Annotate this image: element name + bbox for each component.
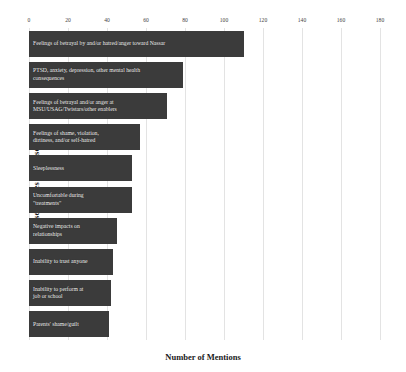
bar[interactable] xyxy=(29,280,111,306)
bar[interactable] xyxy=(29,187,132,213)
x-tick-label: 180 xyxy=(376,17,384,23)
bar[interactable] xyxy=(29,93,167,119)
bar[interactable] xyxy=(29,311,109,337)
bar-row[interactable]: Feelings of betrayal and/or anger at MSU… xyxy=(29,93,380,119)
x-tick-label: 160 xyxy=(337,17,345,23)
bar-chart: Consequences of Abuse 020406080100120140… xyxy=(0,0,406,372)
x-tick-label: 120 xyxy=(259,17,267,23)
bar[interactable] xyxy=(29,62,183,88)
x-axis-tick-labels: 020406080100120140160180 xyxy=(29,17,380,28)
bar[interactable] xyxy=(29,155,132,181)
plot-area: Feelings of betrayal by and/or hatred/an… xyxy=(29,28,380,340)
bars: Feelings of betrayal by and/or hatred/an… xyxy=(29,28,380,340)
bar-row[interactable]: PTSD, anxiety, depression, other mental … xyxy=(29,62,380,88)
bar-row[interactable]: Feelings of shame, violation, dirtiness,… xyxy=(29,124,380,150)
bar-row[interactable]: Negative impacts on relationships xyxy=(29,218,380,244)
x-tick-label: 20 xyxy=(65,17,71,23)
bar-row[interactable]: Feelings of betrayal by and/or hatred/an… xyxy=(29,31,380,57)
bar-row[interactable]: Parents' shame/guilt xyxy=(29,311,380,337)
bar[interactable] xyxy=(29,124,140,150)
bar-row[interactable]: Uncomfortable during "treatments" xyxy=(29,187,380,213)
bar-row[interactable]: Sleeplessness xyxy=(29,155,380,181)
bar-row[interactable]: Inability to perform at job or school xyxy=(29,280,380,306)
x-tick-label: 0 xyxy=(28,17,31,23)
bar-row[interactable]: Inability to trust anyone xyxy=(29,249,380,275)
bar[interactable] xyxy=(29,218,117,244)
gridline xyxy=(380,28,381,340)
bar[interactable] xyxy=(29,31,244,57)
x-axis-title: Number of Mentions xyxy=(0,352,406,362)
x-tick-label: 80 xyxy=(182,17,188,23)
x-tick-label: 40 xyxy=(104,17,110,23)
x-tick-label: 60 xyxy=(143,17,149,23)
x-tick-label: 140 xyxy=(298,17,306,23)
bar[interactable] xyxy=(29,249,113,275)
x-tick-label: 100 xyxy=(220,17,228,23)
